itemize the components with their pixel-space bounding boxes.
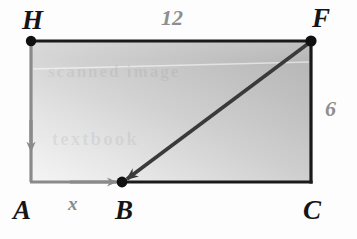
vertex-dot-H: [26, 36, 36, 46]
vertex-dot-F: [305, 35, 316, 46]
vertex-label-F: F: [312, 5, 330, 32]
geometry-diagram: scanned image textbook H F C A B 12 6 x: [0, 0, 357, 239]
rectangle-sheen: [31, 41, 311, 182]
vertex-label-A: A: [13, 197, 31, 224]
measurement-label-top: 12: [161, 7, 183, 29]
measurement-label-x: x: [68, 194, 78, 213]
measurement-label-right: 6: [325, 98, 336, 120]
vertex-dot-B: [117, 177, 128, 188]
vertex-label-C: C: [303, 197, 321, 224]
vertex-label-H: H: [22, 7, 43, 34]
vertex-label-B: B: [115, 197, 133, 224]
